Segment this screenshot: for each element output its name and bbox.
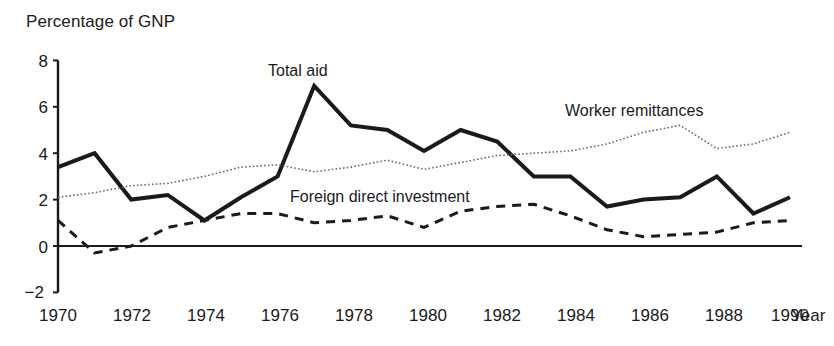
x-tick-label-1978: 1978 <box>326 306 382 326</box>
x-tick-label-1984: 1984 <box>548 306 604 326</box>
y-tick-label-2: 2 <box>14 191 48 211</box>
series-label-foreign-direct-investment: Foreign direct investment <box>290 188 470 206</box>
y-tick-label-0: 0 <box>14 238 48 258</box>
x-tick-label-1972: 1972 <box>104 306 160 326</box>
series-label-worker-remittances: Worker remittances <box>565 102 703 120</box>
x-axis-title: Year <box>791 306 825 326</box>
series-label-total-aid: Total aid <box>268 62 328 80</box>
chart-figure: Percentage of GNP 8 6 4 2 0 −2 1970 1972… <box>0 0 834 346</box>
y-axis-title: Percentage of GNP <box>26 12 175 32</box>
x-tick-label-1982: 1982 <box>474 306 530 326</box>
series-line-worker-remittances <box>58 125 790 197</box>
plot-area <box>0 0 834 346</box>
x-tick-label-1986: 1986 <box>622 306 678 326</box>
y-tick-label-6: 6 <box>14 98 48 118</box>
x-tick-label-1988: 1988 <box>696 306 752 326</box>
x-tick-label-1970: 1970 <box>30 306 86 326</box>
y-tick-label-4: 4 <box>14 145 48 165</box>
x-tick-label-1980: 1980 <box>400 306 456 326</box>
x-tick-label-1974: 1974 <box>178 306 234 326</box>
y-tick-label-minus2: −2 <box>10 283 44 303</box>
y-tick-label-8: 8 <box>14 52 48 72</box>
x-tick-label-1976: 1976 <box>252 306 308 326</box>
